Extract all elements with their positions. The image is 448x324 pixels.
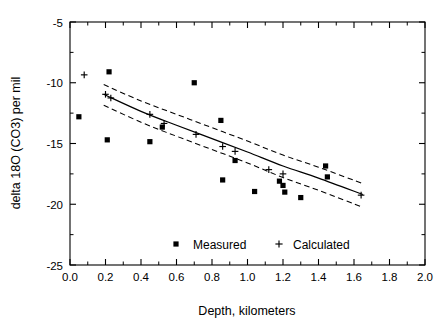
data-point-measured bbox=[192, 80, 197, 85]
data-point-measured bbox=[280, 183, 285, 188]
data-point-measured bbox=[325, 174, 330, 179]
data-point-measured bbox=[160, 124, 165, 129]
data-point-measured bbox=[218, 118, 223, 123]
x-axis-title: Depth, kilometers bbox=[198, 304, 295, 318]
oxygen-isotope-depth-scatter-plot: 0.00.20.40.60.81.01.21.41.61.82.0 -5-10-… bbox=[0, 0, 448, 324]
chart-figure: 0.00.20.40.60.81.01.21.41.61.82.0 -5-10-… bbox=[0, 0, 448, 324]
y-tick-label: -15 bbox=[46, 138, 63, 150]
x-tick-label: 1.6 bbox=[346, 271, 362, 283]
x-tick-label: 1.8 bbox=[382, 271, 398, 283]
y-tick-label: -5 bbox=[53, 17, 63, 29]
y-tick-label: -20 bbox=[46, 199, 63, 211]
data-point-measured bbox=[252, 189, 257, 194]
x-tick-label: 1.4 bbox=[311, 271, 328, 283]
data-point-measured bbox=[106, 69, 111, 74]
x-tick-label: 0.0 bbox=[62, 271, 78, 283]
y-tick-label: -10 bbox=[46, 77, 63, 89]
y-axis-title: delta 18O (CO3) per mil bbox=[9, 77, 23, 210]
legend-label-calculated: Calculated bbox=[293, 238, 350, 252]
data-point-measured bbox=[282, 190, 287, 195]
data-point-measured bbox=[105, 137, 110, 142]
data-point-measured bbox=[323, 163, 328, 168]
x-tick-label: 2.0 bbox=[417, 271, 433, 283]
data-point-measured bbox=[220, 177, 225, 182]
x-tick-label: 0.4 bbox=[133, 271, 150, 283]
legend-label-measured: Measured bbox=[193, 238, 246, 252]
x-tick-label: 1.0 bbox=[240, 271, 256, 283]
data-point-measured bbox=[173, 241, 178, 246]
y-tick-label: -25 bbox=[46, 260, 63, 272]
x-tick-label: 0.6 bbox=[169, 271, 185, 283]
data-point-measured bbox=[232, 158, 237, 163]
x-tick-label: 0.2 bbox=[98, 271, 114, 283]
x-tick-label: 0.8 bbox=[204, 271, 220, 283]
x-tick-label: 1.2 bbox=[275, 271, 291, 283]
data-point-measured bbox=[147, 139, 152, 144]
data-point-measured bbox=[76, 114, 81, 119]
data-point-measured bbox=[298, 195, 303, 200]
